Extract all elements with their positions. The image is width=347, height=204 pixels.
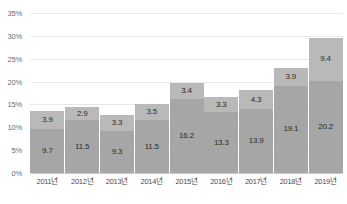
bar-segment-lower[interactable]: 20.2 — [309, 81, 343, 173]
x-axis-tick-label: 2014년 — [134, 178, 169, 186]
x-axis-tick-label: 2017년 — [239, 178, 274, 186]
bar-group[interactable]: 20.29.4 — [309, 38, 343, 173]
x-axis-tick-label: 2018년 — [273, 178, 308, 186]
bar-segment-upper[interactable]: 4.3 — [239, 90, 273, 110]
bar-group[interactable]: 13.33.3 — [204, 97, 238, 173]
bar-value-label: 3.5 — [146, 108, 157, 116]
gridline-0 — [30, 173, 343, 174]
x-axis-tick-label: 2019년 — [308, 178, 343, 186]
bar-value-label: 3.3 — [112, 119, 123, 127]
bar-value-label: 3.3 — [216, 101, 227, 109]
x-axis-tick-label: 2015년 — [169, 178, 204, 186]
bar-value-label: 3.9 — [42, 116, 53, 124]
y-axis-tick-label: 20% — [0, 78, 22, 86]
bar-value-label: 13.3 — [214, 139, 229, 147]
bar-value-label: 4.3 — [251, 96, 262, 104]
bar-group[interactable]: 11.53.5 — [135, 104, 169, 173]
bar-segment-lower[interactable]: 9.7 — [30, 129, 64, 173]
bar-group[interactable]: 11.52.9 — [65, 107, 99, 173]
bar-value-label: 3.9 — [286, 73, 297, 81]
bar-segment-lower[interactable]: 16.2 — [170, 99, 204, 173]
bar-segment-upper[interactable]: 3.9 — [30, 111, 64, 129]
x-axis-tick-label: 2013년 — [100, 178, 135, 186]
bar-value-label: 20.2 — [318, 123, 333, 131]
bar-value-label: 19.1 — [283, 125, 298, 133]
bar-segment-upper[interactable]: 3.5 — [135, 104, 169, 120]
x-axis-tick-label: 2016년 — [204, 178, 239, 186]
bar-segment-upper[interactable]: 3.9 — [274, 68, 308, 86]
bar-segment-lower[interactable]: 19.1 — [274, 86, 308, 173]
bar-segment-upper[interactable]: 9.4 — [309, 38, 343, 81]
bar-series-layer: 9.73.911.52.99.33.311.53.516.23.413.33.3… — [30, 13, 343, 173]
bar-value-label: 9.4 — [320, 55, 331, 63]
x-axis-tick-label: 2011년 — [30, 178, 65, 186]
plot-area: 0%5%10%15%20%25%30%35% 9.73.911.52.99.33… — [30, 13, 343, 173]
bar-value-label: 16.2 — [179, 132, 194, 140]
bar-segment-lower[interactable]: 13.9 — [239, 109, 273, 173]
bar-group[interactable]: 16.23.4 — [170, 83, 204, 173]
y-axis-tick-label: 5% — [0, 147, 22, 155]
bar-group[interactable]: 13.94.3 — [239, 90, 273, 173]
y-axis-tick-label: 25% — [0, 55, 22, 63]
bar-value-label: 3.4 — [181, 87, 192, 95]
y-axis-tick-label: 0% — [0, 170, 22, 178]
bar-value-label: 13.9 — [249, 137, 264, 145]
y-axis-tick-label: 35% — [0, 10, 22, 18]
bar-value-label: 11.5 — [145, 143, 159, 151]
bar-segment-upper[interactable]: 3.3 — [100, 115, 134, 130]
stacked-bar-chart: 0%5%10%15%20%25%30%35% 9.73.911.52.99.33… — [0, 0, 347, 204]
bar-value-label: 9.3 — [112, 148, 123, 156]
bar-value-label: 9.7 — [42, 147, 53, 155]
bar-group[interactable]: 9.33.3 — [100, 115, 134, 173]
bar-segment-lower[interactable]: 9.3 — [100, 131, 134, 174]
y-axis-tick-label: 10% — [0, 124, 22, 132]
bar-value-label: 11.5 — [75, 143, 89, 151]
bar-value-label: 2.9 — [77, 110, 88, 118]
bar-segment-upper[interactable]: 2.9 — [65, 107, 99, 120]
x-axis-tick-label: 2012년 — [65, 178, 100, 186]
bar-segment-lower[interactable]: 13.3 — [204, 112, 238, 173]
bar-segment-lower[interactable]: 11.5 — [135, 120, 169, 173]
bar-segment-upper[interactable]: 3.4 — [170, 83, 204, 99]
bar-segment-lower[interactable]: 11.5 — [65, 120, 99, 173]
bar-segment-upper[interactable]: 3.3 — [204, 97, 238, 112]
bar-group[interactable]: 9.73.9 — [30, 111, 64, 173]
y-axis-tick-label: 15% — [0, 101, 22, 109]
y-axis-tick-label: 30% — [0, 32, 22, 40]
bar-group[interactable]: 19.13.9 — [274, 68, 308, 173]
